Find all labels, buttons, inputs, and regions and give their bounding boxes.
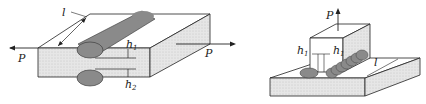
force-up-label: P bbox=[325, 9, 334, 22]
length-leader-line bbox=[71, 12, 87, 17]
top-weld-end bbox=[77, 42, 103, 58]
left-weld bbox=[300, 68, 318, 78]
diagram-canvas: l P P h1 h2 P bbox=[0, 0, 426, 104]
arrowhead bbox=[9, 46, 15, 51]
length-label: l bbox=[374, 56, 378, 69]
arrowhead bbox=[336, 8, 341, 14]
t-joint-figure: P h1 h1 l bbox=[270, 8, 420, 96]
force-right-label: P bbox=[204, 47, 213, 60]
leg2-label: h2 bbox=[125, 78, 137, 92]
arrowhead bbox=[230, 42, 236, 47]
top-weld-far-end bbox=[132, 11, 154, 21]
leg-left-label: h1 bbox=[297, 44, 309, 58]
length-label: l bbox=[62, 6, 66, 19]
force-left-label: P bbox=[17, 52, 26, 65]
lap-joint-figure: l P P h1 h2 bbox=[9, 6, 236, 92]
bottom-weld bbox=[77, 70, 103, 86]
base-plate-front bbox=[270, 78, 365, 96]
